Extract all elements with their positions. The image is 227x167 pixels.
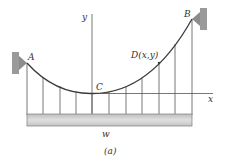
point-D-label: D(x,y) bbox=[130, 50, 159, 60]
load-label: w bbox=[102, 129, 110, 139]
cable bbox=[27, 19, 192, 94]
point-C-label: C bbox=[96, 82, 103, 92]
point-A-label: A bbox=[27, 52, 35, 62]
point-D-marker bbox=[158, 62, 160, 64]
hangers bbox=[27, 19, 192, 115]
figure-caption: (a) bbox=[104, 146, 117, 156]
point-B-label: B bbox=[183, 9, 191, 19]
support-B bbox=[192, 8, 207, 30]
y-axis-label: y bbox=[81, 12, 88, 22]
support-A bbox=[12, 52, 27, 74]
x-axis-label: x bbox=[208, 94, 213, 104]
cable-diagram: y x A B C D(x,y) w (a) bbox=[0, 0, 227, 167]
load-deck bbox=[27, 114, 192, 126]
